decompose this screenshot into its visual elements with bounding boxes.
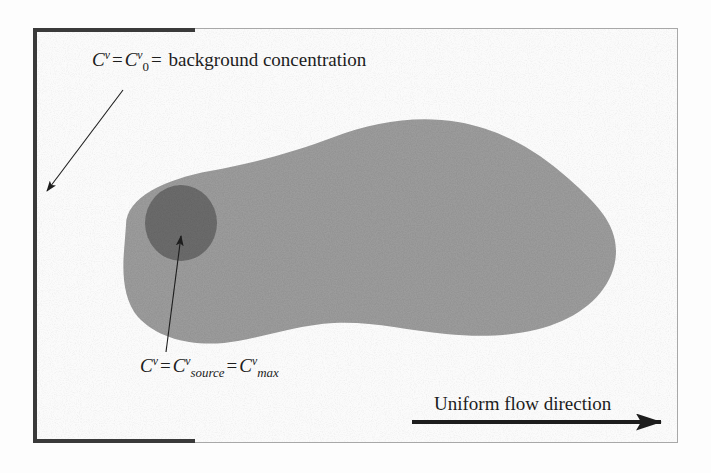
figure-frame	[33, 28, 678, 443]
label-source-var-c3: C	[239, 355, 252, 376]
frame-rule-top-left	[33, 28, 195, 32]
label-source-sub-max: max	[257, 365, 279, 380]
label-source-sub-source: source	[191, 365, 225, 380]
label-source-concentration: Cv=Cvsource=Cvmax	[140, 356, 279, 380]
label-background-concentration: Cv=Cv0= background concentration	[92, 50, 366, 74]
label-background-var-c1: C	[92, 49, 105, 70]
label-source-var-c1: C	[140, 355, 153, 376]
label-uniform-flow-direction: Uniform flow direction	[434, 394, 611, 413]
frame-rule-bottom-left	[33, 439, 195, 443]
contaminant-plume-group	[34, 29, 678, 443]
label-background-var-c2: C	[125, 49, 138, 70]
frame-rule-left	[33, 28, 37, 443]
source-zone	[145, 185, 217, 261]
label-source-equals-2: =	[225, 355, 240, 376]
label-source-equals-1: =	[158, 355, 173, 376]
label-background-equals-1: =	[110, 49, 125, 70]
label-background-text: background concentration	[168, 49, 366, 70]
label-source-var-c2: C	[173, 355, 186, 376]
label-background-equals-2: =	[149, 49, 164, 70]
scanned-page: Cv=Cv0= background concentration Cv=Cvso…	[0, 0, 711, 473]
